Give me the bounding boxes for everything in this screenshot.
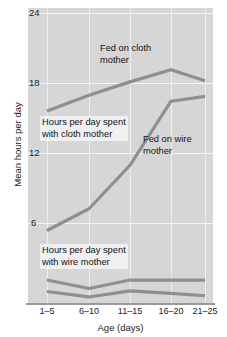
series-line-2 [47, 280, 205, 288]
y-axis-title: Mean hours per day [12, 85, 23, 205]
x-tick-label-11-15: 11–15 [118, 306, 142, 316]
series-line-0 [47, 70, 205, 111]
y-tick-label-18: 18 [29, 77, 40, 88]
y-tick-label-12: 12 [29, 147, 40, 158]
y-tick-label-24: 24 [29, 7, 40, 18]
x-axis-line [26, 303, 215, 305]
series-line-3 [47, 291, 205, 297]
annotation-cloth-mother-contact: Hours per day spent with cloth mother [40, 116, 128, 141]
y-tick-label-6: 6 [31, 217, 36, 228]
chart-container: Mean hours per day 24 18 12 6 1–5 6–10 1… [0, 0, 227, 337]
annotation-fed-on-cloth-mother: Fed on cloth mother [98, 42, 153, 67]
x-tick-label-16-20: 16–20 [158, 306, 183, 316]
x-tick-label-1-5: 1–5 [39, 306, 54, 316]
x-tick-label-6-10: 6–10 [79, 306, 99, 316]
x-axis-title: Age (days) [28, 322, 213, 333]
annotation-fed-on-wire-mother: Fed on wire mother [141, 133, 194, 158]
annotation-wire-mother-contact: Hours per day spent with wire mother [40, 244, 128, 269]
x-tick-label-21-25: 21–25 [192, 306, 217, 316]
